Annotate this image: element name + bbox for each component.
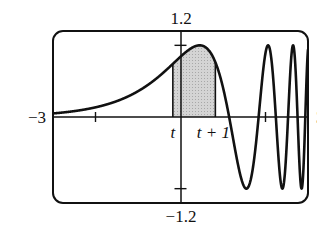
chart: 1.2 −1.2 −3 3 t t + 1 (0, 0, 317, 228)
x-min-label: −3 (28, 108, 46, 127)
t-plus-1-label: t + 1 (197, 123, 230, 142)
x-max-label: 3 (316, 108, 317, 127)
y-min-label: −1.2 (166, 207, 197, 226)
y-max-label: 1.2 (170, 9, 191, 28)
t-label: t (170, 123, 176, 142)
shaded-area (173, 45, 216, 117)
